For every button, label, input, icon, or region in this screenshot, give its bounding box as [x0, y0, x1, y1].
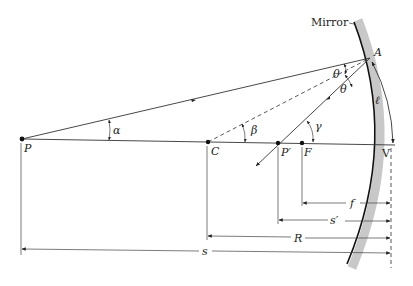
point-P-label: P [23, 142, 32, 155]
point-F [300, 141, 304, 145]
dimension-f-label: f [349, 197, 356, 210]
dimension-s-prime-label: s′ [330, 214, 339, 227]
point-A-label: A [373, 46, 382, 59]
point-F-label: F [303, 146, 312, 159]
point-P-prime [276, 141, 280, 145]
arc-length-label: ℓ [375, 94, 380, 107]
dimension-R-label: R [293, 232, 302, 245]
gamma-arc [307, 121, 313, 142]
beta-label: β [250, 124, 257, 137]
beta-arc [242, 124, 245, 142]
theta-label-1: θ [333, 68, 340, 81]
gamma-label: γ [315, 120, 322, 133]
reflected-ray [256, 58, 370, 166]
theta-arc-1 [344, 64, 346, 74]
point-V-label: V [381, 147, 391, 160]
alpha-label: α [113, 124, 121, 137]
point-C-label: C [211, 145, 220, 158]
concave-mirror-diagram: Mirror ℓ α β γ θ θ P C P′ F V A f [0, 0, 413, 286]
mirror-label: Mirror [311, 16, 349, 29]
theta-label-2: θ [340, 83, 347, 96]
alpha-arc [109, 120, 110, 140]
point-C [206, 140, 210, 144]
dimension-s: s [22, 245, 390, 258]
dimension-s-label: s [202, 245, 208, 258]
point-P-prime-label: P′ [280, 146, 291, 159]
point-P [20, 137, 25, 142]
mirror-label-leader [349, 23, 354, 24]
